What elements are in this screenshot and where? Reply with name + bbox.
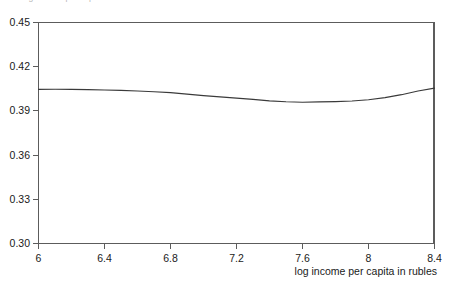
y-tick-label-0.33: 0.33 <box>0 194 30 205</box>
chart-figure: log income per capita <box>0 0 451 287</box>
plot-area <box>0 0 451 287</box>
y-tick-label-0.45: 0.45 <box>0 17 30 28</box>
y-tick-marks <box>33 23 39 244</box>
y-tick-label-0.39: 0.39 <box>0 105 30 116</box>
x-tick-label-6.4: 6.4 <box>85 253 125 264</box>
y-tick-label-0.42: 0.42 <box>0 61 30 72</box>
x-tick-label-6: 6 <box>19 253 59 264</box>
x-axis-title: log income per capita in rubles <box>295 265 437 277</box>
x-tick-label-8.4: 8.4 <box>415 253 451 264</box>
x-tick-label-6.8: 6.8 <box>151 253 191 264</box>
y-tick-label-0.36: 0.36 <box>0 150 30 161</box>
x-tick-marks <box>39 244 435 250</box>
y-tick-label-0.30: 0.30 <box>0 238 30 249</box>
series-line-estimate <box>39 88 435 102</box>
x-tick-label-8: 8 <box>349 253 389 264</box>
x-tick-label-7.6: 7.6 <box>283 253 323 264</box>
x-tick-label-7.2: 7.2 <box>217 253 257 264</box>
